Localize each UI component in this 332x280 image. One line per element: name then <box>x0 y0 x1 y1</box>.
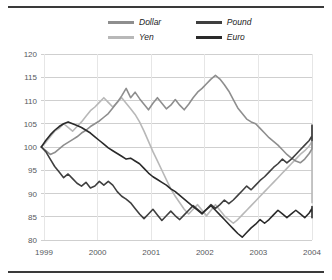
top-divider-rule <box>8 6 324 8</box>
svg-text:85: 85 <box>28 213 37 222</box>
bottom-divider-rule <box>8 271 324 273</box>
svg-text:100: 100 <box>24 143 38 152</box>
svg-text:2000: 2000 <box>89 248 107 257</box>
svg-text:2001: 2001 <box>142 248 160 257</box>
plot-svg: 80859095100105110115120 1999200020012002… <box>10 46 322 268</box>
svg-text:80: 80 <box>28 236 37 245</box>
svg-text:90: 90 <box>28 190 37 199</box>
legend-label-pound: Pound <box>227 17 252 27</box>
legend-item-euro[interactable]: Euro <box>196 31 268 43</box>
x-axis-labels: 199920002001200220032004 <box>35 248 321 257</box>
legend-item-pound[interactable]: Pound <box>196 16 268 28</box>
svg-text:115: 115 <box>24 73 37 82</box>
legend-item-dollar[interactable]: Dollar <box>108 16 178 28</box>
chart-legend: Dollar Pound Yen Euro <box>108 16 268 43</box>
line-chart: 80859095100105110115120 1999200020012002… <box>10 46 322 268</box>
legend-label-dollar: Dollar <box>139 17 161 27</box>
svg-text:2003: 2003 <box>250 248 268 257</box>
y-axis-labels: 80859095100105110115120 <box>24 50 38 245</box>
legend-swatch-pound <box>196 21 222 24</box>
svg-text:120: 120 <box>24 50 38 59</box>
legend-label-yen: Yen <box>139 32 154 42</box>
svg-text:95: 95 <box>28 166 37 175</box>
chart-screenshot: Dollar Pound Yen Euro 808590951001051101… <box>0 0 332 280</box>
svg-text:2004: 2004 <box>303 248 321 257</box>
legend-swatch-dollar <box>108 21 134 24</box>
legend-label-euro: Euro <box>227 32 245 42</box>
svg-text:110: 110 <box>24 97 37 106</box>
legend-swatch-yen <box>108 36 134 39</box>
legend-swatch-euro <box>196 36 222 39</box>
svg-text:1999: 1999 <box>35 248 53 257</box>
legend-item-yen[interactable]: Yen <box>108 31 178 43</box>
data-series-group <box>41 75 312 237</box>
svg-text:105: 105 <box>24 120 38 129</box>
horizontal-gridlines <box>44 54 312 240</box>
svg-text:2002: 2002 <box>196 248 214 257</box>
